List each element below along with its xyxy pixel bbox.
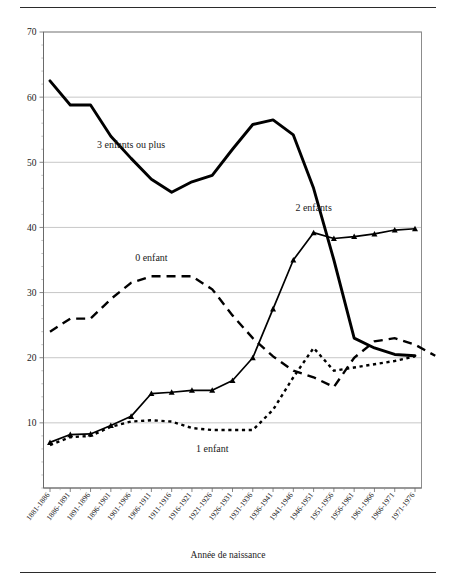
- y-tick-label-20: 20: [27, 353, 37, 363]
- y-axis-ticks: 10203040506070: [27, 27, 44, 488]
- plot-border: [44, 32, 422, 488]
- y-tick-label-50: 50: [27, 158, 37, 168]
- y-tick-label-60: 60: [27, 93, 37, 103]
- series-labels-group: 3 enfants ou plus0 enfant2 enfants1 enfa…: [97, 139, 332, 454]
- y-tick-label-70: 70: [27, 27, 37, 37]
- data-series-group: [47, 81, 435, 445]
- series-line-3: [50, 348, 415, 445]
- series-line-2: [50, 229, 415, 443]
- line-chart-svg: 10203040506070 1881-18861886-18911891-18…: [0, 0, 456, 584]
- series-label-3: 1 enfant: [196, 443, 229, 454]
- series-label-2: 2 enfants: [295, 202, 331, 213]
- figure-container: 10203040506070 1881-18861886-18911891-18…: [0, 0, 456, 584]
- x-axis: 1881-18861886-18911891-18961896-19011901…: [24, 488, 421, 522]
- y-tick-label-40: 40: [27, 223, 37, 233]
- series-label-1: 0 enfant: [135, 252, 168, 263]
- y-tick-label-10: 10: [27, 418, 37, 428]
- series-marker-2-11: [270, 306, 276, 312]
- x-axis-title: Année de naissance: [191, 550, 266, 560]
- chart-plot-area: 10203040506070 1881-18861886-18911891-18…: [0, 0, 456, 584]
- y-tick-label-30: 30: [27, 288, 37, 298]
- series-label-0: 3 enfants ou plus: [97, 139, 165, 150]
- plot-frame: [44, 32, 422, 488]
- gridlines-group: [44, 32, 422, 423]
